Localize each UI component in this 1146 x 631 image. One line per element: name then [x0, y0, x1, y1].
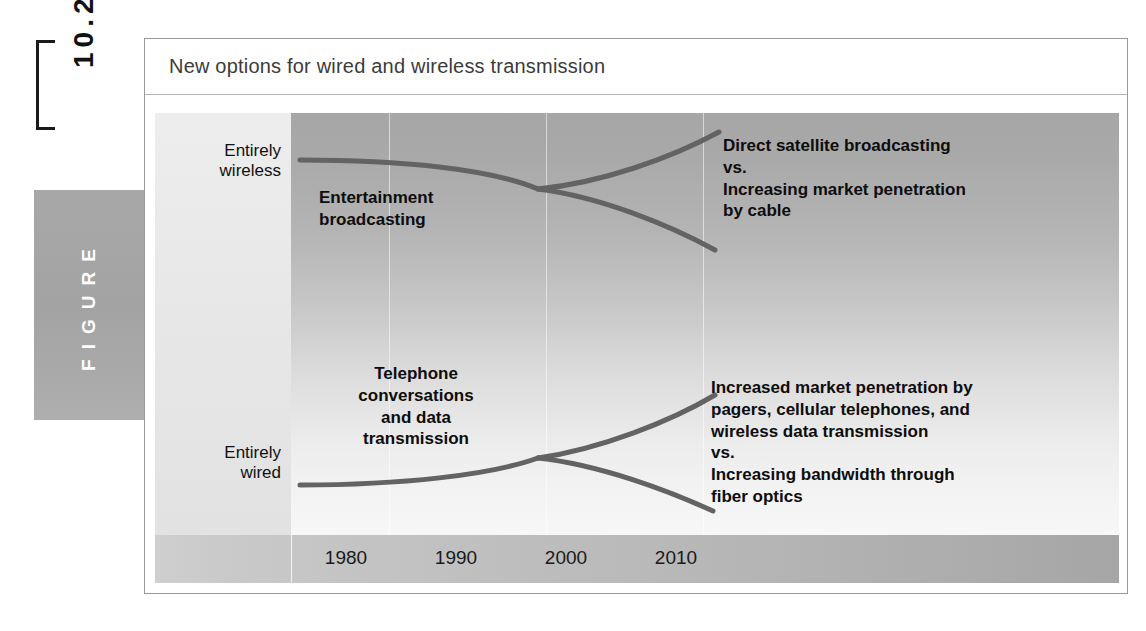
y-axis-label-entirely-wireless: Entirely wireless [161, 141, 281, 182]
figure-title-bar: New options for wired and wireless trans… [145, 39, 1127, 95]
x-tick-1980: 1980 [311, 547, 381, 569]
figure-frame: New options for wired and wireless trans… [144, 38, 1128, 594]
x-tick-2000: 2000 [531, 547, 601, 569]
curve-entertainment-broadcasting [300, 160, 538, 189]
figure-tab: FIGURE [34, 190, 144, 420]
page-title: New options for wired and wireless trans… [145, 55, 605, 78]
x-tick-1990: 1990 [421, 547, 491, 569]
figure-number: 10.2 [66, 0, 102, 68]
curve-pagers-cellular-wireless-data [538, 395, 715, 458]
x-axis-divider [291, 535, 292, 583]
figure-number-group: 10.2 [28, 32, 138, 172]
plot-label-entertainment-broadcasting: Entertainment broadcasting [319, 187, 433, 231]
plot-panel: Entertainment broadcasting Telephone con… [291, 113, 1119, 535]
figure-caption [144, 610, 1134, 630]
curve-layer [291, 113, 1119, 535]
chart-body: Entirely wireless Entirely wired [155, 113, 1119, 583]
plot-label-direct-satellite-vs-cable: Direct satellite broadcasting vs. Increa… [723, 135, 966, 222]
curve-increasing-market-penetration-by-cable [538, 189, 715, 250]
plot-label-pagers-vs-fiber-optics: Increased market penetration by pagers, … [711, 377, 973, 508]
curve-direct-satellite-broadcasting [538, 132, 719, 189]
x-tick-2010: 2010 [641, 547, 711, 569]
plot-label-telephone-conversations: Telephone conversations and data transmi… [321, 363, 511, 450]
curve-telephone-conversations [300, 458, 538, 485]
figure-tab-label: FIGURE [78, 239, 100, 371]
y-axis-label-entirely-wired: Entirely wired [161, 443, 281, 484]
y-axis-label-column: Entirely wireless Entirely wired [155, 113, 291, 535]
bracket-icon [36, 40, 55, 130]
x-axis-bar: 1980 1990 2000 2010 [155, 535, 1119, 583]
curve-increasing-bandwidth-fiber-optics [538, 458, 713, 511]
